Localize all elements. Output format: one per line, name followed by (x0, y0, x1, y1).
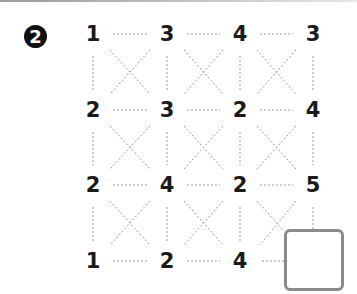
grid-number: 4 (155, 173, 179, 197)
grid-number: 2 (228, 173, 252, 197)
grid-number: 4 (228, 22, 252, 46)
grid-number: 2 (81, 98, 105, 122)
grid-number: 2 (228, 98, 252, 122)
grid-number: 1 (81, 22, 105, 46)
grid-number: 1 (81, 249, 105, 273)
grid-number: 4 (301, 98, 325, 122)
grid-number: 3 (155, 98, 179, 122)
grid-number: 3 (301, 22, 325, 46)
grid-number: 2 (155, 249, 179, 273)
answer-box[interactable] (284, 229, 344, 291)
grid-number: 3 (155, 22, 179, 46)
diag-line (257, 201, 284, 231)
grid-number: 4 (228, 249, 252, 273)
grid-number: 5 (301, 173, 325, 197)
grid-number: 2 (81, 173, 105, 197)
